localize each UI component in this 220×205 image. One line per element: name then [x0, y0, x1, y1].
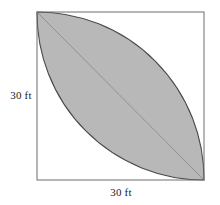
figure-canvas: [0, 0, 220, 205]
geometry-figure: 30 ft 30 ft: [0, 0, 220, 205]
bottom-side-dimension-label: 30 ft: [96, 186, 146, 198]
left-side-dimension-label: 30 ft: [7, 89, 35, 101]
